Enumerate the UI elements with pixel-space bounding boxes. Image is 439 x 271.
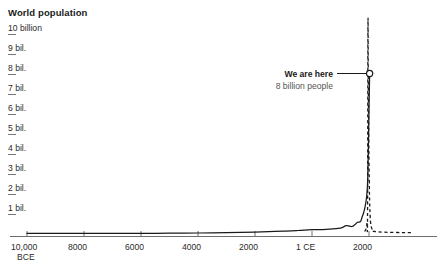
we-are-here-marker bbox=[367, 70, 373, 76]
population-projection-line bbox=[365, 18, 412, 232]
annotation-title: We are here bbox=[259, 68, 333, 80]
plot-area bbox=[0, 0, 439, 271]
we-are-here-annotation: We are here 8 billion people bbox=[259, 68, 333, 92]
world-population-chart: World population 10 billion9 bil.8 bil.7… bbox=[0, 0, 439, 271]
population-historical-line bbox=[27, 74, 370, 234]
annotation-subtitle: 8 billion people bbox=[259, 80, 333, 92]
